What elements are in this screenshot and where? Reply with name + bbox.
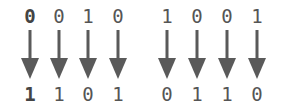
input-bit: 0 xyxy=(106,6,130,26)
output-bit: 0 xyxy=(76,84,100,104)
bit-column-6: 0 1 xyxy=(185,0,209,112)
input-bit: 0 xyxy=(215,6,239,26)
bit-column-4: 0 1 xyxy=(106,0,130,112)
bit-column-7: 0 1 xyxy=(215,0,239,112)
output-bit: 1 xyxy=(106,84,130,104)
input-bit: 0 xyxy=(18,6,42,26)
input-bit: 1 xyxy=(155,6,179,26)
input-bit: 1 xyxy=(76,6,100,26)
down-arrow-icon xyxy=(157,30,177,80)
down-arrow-icon xyxy=(217,30,237,80)
input-bit: 1 xyxy=(245,6,269,26)
bit-column-3: 1 0 xyxy=(76,0,100,112)
bit-column-1: 0 1 xyxy=(18,0,42,112)
output-bit: 1 xyxy=(185,84,209,104)
down-arrow-icon xyxy=(20,30,40,80)
down-arrow-icon xyxy=(187,30,207,80)
bit-column-8: 1 0 xyxy=(245,0,269,112)
bit-column-5: 1 0 xyxy=(155,0,179,112)
output-bit: 1 xyxy=(18,84,42,104)
output-bit: 0 xyxy=(155,84,179,104)
input-bit: 0 xyxy=(185,6,209,26)
output-bit: 1 xyxy=(47,84,71,104)
down-arrow-icon xyxy=(247,30,267,80)
down-arrow-icon xyxy=(78,30,98,80)
down-arrow-icon xyxy=(49,30,69,80)
bit-column-2: 0 1 xyxy=(47,0,71,112)
down-arrow-icon xyxy=(108,30,128,80)
input-bit: 0 xyxy=(47,6,71,26)
output-bit: 1 xyxy=(215,84,239,104)
output-bit: 0 xyxy=(245,84,269,104)
